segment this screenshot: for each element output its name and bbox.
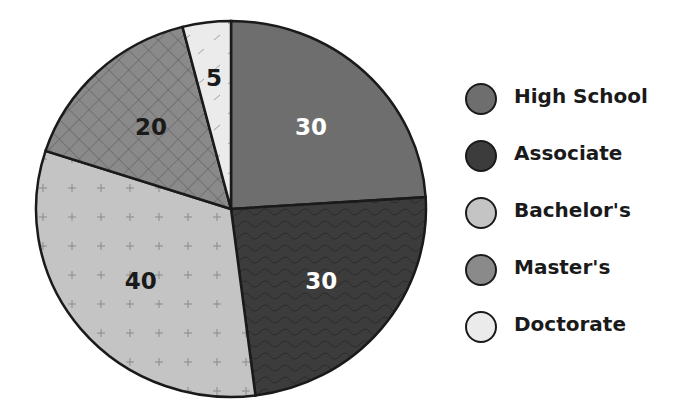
legend-marker-icon xyxy=(465,311,497,343)
legend-label: Associate xyxy=(514,141,622,165)
pie-slice-high-school xyxy=(231,21,426,209)
legend-label: Bachelor's xyxy=(514,198,631,222)
legend-marker-icon xyxy=(465,254,497,286)
legend-label: Master's xyxy=(514,255,610,279)
slice-label-masters: 20 xyxy=(135,114,167,140)
slice-label-bachelors: 40 xyxy=(125,268,157,294)
legend-marker-icon xyxy=(465,83,497,115)
pie-slices xyxy=(36,21,426,397)
pie-slice-associate xyxy=(231,197,426,395)
slice-label-high-school: 30 xyxy=(295,114,327,140)
legend-marker-icon xyxy=(465,197,497,229)
legend-marker-icon xyxy=(465,140,497,172)
legend-label: High School xyxy=(514,84,648,108)
slice-label-associate: 30 xyxy=(305,268,337,294)
legend-label: Doctorate xyxy=(514,312,626,336)
slice-label-doctorate: 5 xyxy=(206,65,222,91)
